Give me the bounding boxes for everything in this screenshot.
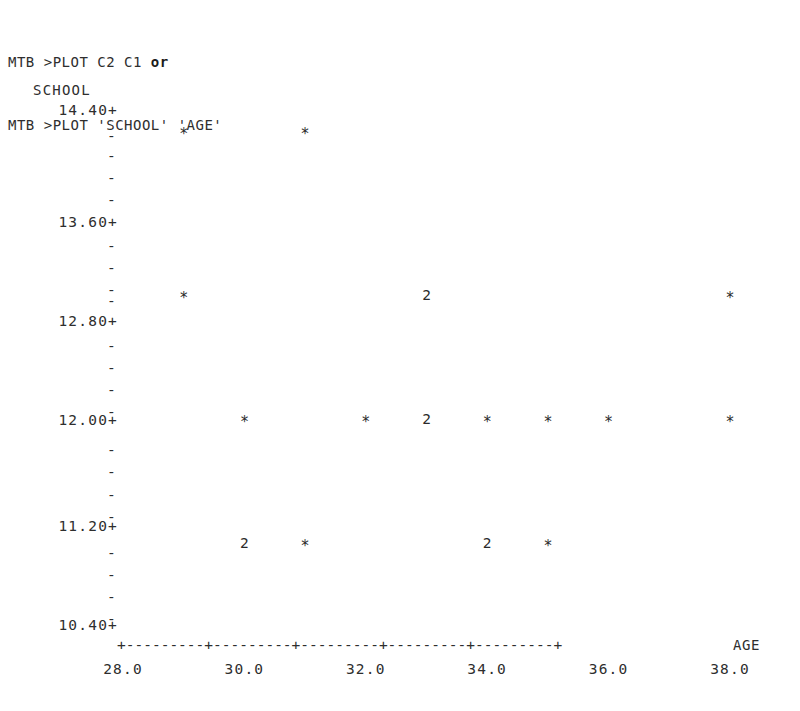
data-point-marker: * — [301, 126, 310, 141]
y-axis-minor-tick: - — [107, 338, 116, 354]
y-axis-minor-tick: - — [107, 170, 116, 186]
y-axis-minor-tick: - — [107, 442, 116, 458]
y-axis-tick-label: 12.80+ — [40, 313, 118, 329]
data-point-marker: * — [543, 538, 552, 553]
x-axis-tick-label: 36.0 — [589, 661, 629, 677]
y-axis-minor-tick: - — [107, 260, 116, 276]
y-axis-minor-tick: - — [107, 238, 116, 254]
y-axis-tick-label: 13.60+ — [40, 214, 118, 230]
y-axis-minor-tick: - — [107, 382, 116, 398]
y-axis-minor-tick: - — [107, 128, 116, 144]
x-axis-tick-label: 28.0 — [103, 661, 143, 677]
y-axis-minor-tick: - — [107, 611, 116, 627]
y-axis-title: SCHOOL — [33, 82, 91, 98]
scatter-plot: SCHOOL 14.40+13.60+12.80+12.00+11.20+10.… — [0, 0, 800, 711]
data-point-marker: * — [725, 291, 734, 306]
data-point-marker: * — [179, 126, 188, 141]
y-axis-minor-tick: - — [107, 192, 116, 208]
data-point-count-marker: 2 — [422, 288, 431, 303]
data-point-marker: * — [301, 538, 310, 553]
x-axis-tick-label: 38.0 — [710, 661, 750, 677]
data-point-marker: * — [240, 415, 249, 430]
x-axis-tick-label: 32.0 — [346, 661, 386, 677]
y-axis-tick-label: 14.40+ — [40, 102, 118, 118]
data-point-marker: * — [604, 415, 613, 430]
data-point-count-marker: 2 — [240, 535, 249, 550]
data-point-count-marker: 2 — [422, 412, 431, 427]
y-axis-minor-tick: - — [107, 487, 116, 503]
x-axis-line: +---------+---------+---------+---------… — [117, 637, 562, 653]
y-axis-minor-tick: - — [107, 360, 116, 376]
data-point-marker: * — [361, 415, 370, 430]
y-axis-minor-tick: - — [107, 567, 116, 583]
x-axis-tick-label: 30.0 — [225, 661, 265, 677]
y-axis-minor-tick: - — [107, 293, 116, 309]
y-axis-minor-tick: - — [107, 404, 116, 420]
data-point-marker: * — [483, 415, 492, 430]
y-axis-minor-tick: - — [107, 545, 116, 561]
y-axis-minor-tick: - — [107, 589, 116, 605]
x-axis-tick-label: 34.0 — [467, 661, 507, 677]
y-axis-minor-tick: - — [107, 464, 116, 480]
data-point-marker: * — [725, 415, 734, 430]
data-point-marker: * — [543, 415, 552, 430]
x-axis-title: AGE — [733, 637, 760, 653]
data-point-count-marker: 2 — [483, 535, 492, 550]
y-axis-minor-tick: - — [107, 148, 116, 164]
y-axis-minor-tick: - — [107, 509, 116, 525]
data-point-marker: * — [179, 291, 188, 306]
